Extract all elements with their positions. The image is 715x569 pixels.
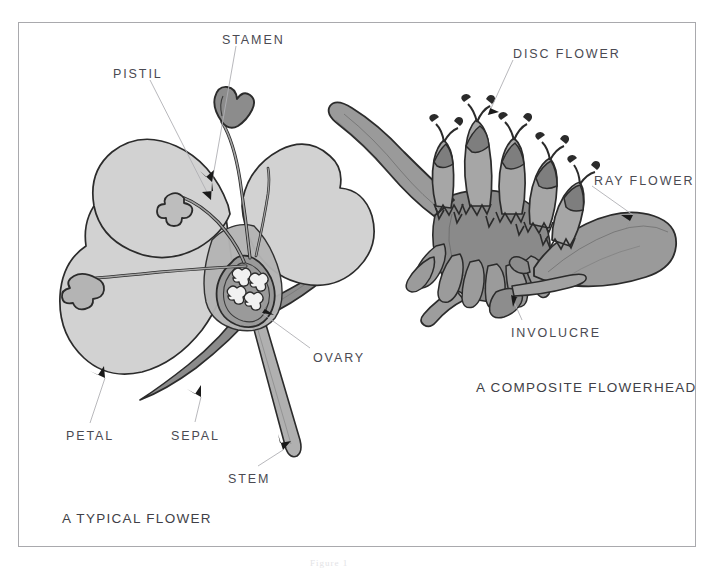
caption-composite-flowerhead: A COMPOSITE FLOWERHEAD (476, 381, 697, 395)
leader-disc-flower (488, 60, 513, 115)
leader-ray-flower (592, 186, 633, 215)
botanical-illustration (0, 0, 715, 569)
label-disc-flower: DISC FLOWER (513, 48, 621, 61)
flower-stem (252, 318, 301, 457)
label-sepal: SEPAL (171, 430, 220, 443)
figure-typical-flower (60, 46, 374, 466)
label-stamen: STAMEN (222, 34, 285, 47)
caption-typical-flower: A TYPICAL FLOWER (62, 512, 212, 526)
label-pistil: PISTIL (113, 68, 163, 81)
diagram-page: PISTIL STAMEN OVARY PETAL SEPAL STEM A T… (0, 0, 715, 569)
label-stem: STEM (228, 473, 270, 486)
leader-stem (258, 450, 283, 466)
label-ray-flower: RAY FLOWER (594, 175, 695, 188)
leader-petal (90, 378, 105, 423)
page-edge-mark: Figure 1 (310, 558, 348, 568)
label-petal: PETAL (66, 430, 114, 443)
label-involucre: INVOLUCRE (511, 327, 601, 340)
leader-sepal (195, 397, 201, 422)
arrow-sepal (187, 385, 201, 397)
label-ovary: OVARY (313, 352, 365, 365)
figure-composite-flowerhead (329, 60, 677, 326)
